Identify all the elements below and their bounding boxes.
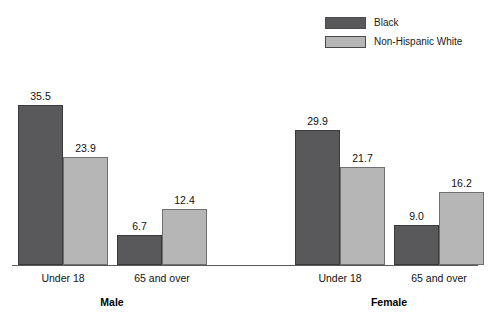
bar-value-label: 29.9 (289, 116, 346, 127)
x-axis-baseline (12, 265, 478, 266)
category-tick-label: Under 18 (290, 272, 390, 285)
bar (340, 167, 385, 265)
bar-value-label: 9.0 (388, 211, 445, 222)
bar-value-label: 6.7 (111, 221, 168, 232)
bar-value-label: 16.2 (433, 178, 490, 189)
group-label: Female (329, 296, 449, 309)
bar-chart: BlackNon-Hispanic White 35.523.96.712.42… (0, 0, 494, 325)
bar (162, 209, 207, 265)
category-tick-label: Under 18 (13, 272, 113, 285)
bar-value-label: 35.5 (12, 91, 69, 102)
bar-value-label: 12.4 (156, 195, 213, 206)
bar-value-label: 21.7 (334, 153, 391, 164)
category-tick-label: 65 and over (389, 272, 489, 285)
bar (295, 130, 340, 265)
bar (439, 192, 484, 265)
group-label: Male (52, 296, 172, 309)
bar (63, 157, 108, 265)
plot-area: 35.523.96.712.429.921.79.016.2 Under 186… (0, 0, 494, 325)
bar (18, 105, 63, 265)
category-tick-label: 65 and over (112, 272, 212, 285)
bar-value-label: 23.9 (57, 143, 114, 154)
bar (394, 225, 439, 266)
bar (117, 235, 162, 265)
